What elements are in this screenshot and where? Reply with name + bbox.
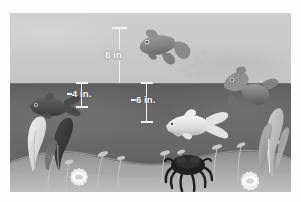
anemone-flower-left — [58, 161, 100, 191]
measure-tick-bottom-6in — [141, 121, 153, 123]
illustration-canvas: 8 in. 4 in. 6 in. — [0, 0, 301, 202]
measure-label-6in: 6 in. — [136, 95, 156, 105]
anemone-flower-right — [228, 165, 272, 192]
measurement-depth-center: 6 in. — [10, 13, 291, 153]
picture-frame: 8 in. 4 in. 6 in. — [10, 13, 291, 192]
crab-on-sand — [160, 149, 218, 192]
